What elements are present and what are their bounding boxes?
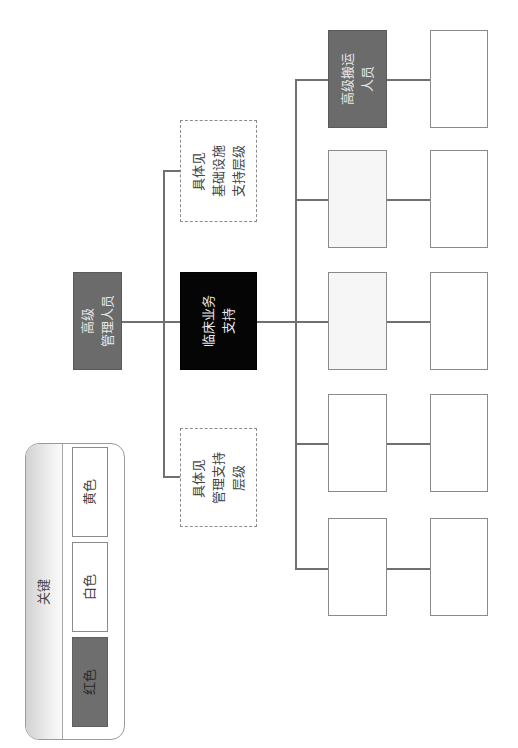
node-text: 人员 [358,53,378,105]
node-text: 高级 [78,295,98,347]
legend-label: 白色 [80,574,100,600]
node-l4-5 [430,518,488,616]
connector-l3-5 [295,568,328,570]
node-l3-5 [328,518,387,616]
node-clinical-support: 临床业务 支持 [180,272,257,370]
connector-l4-2 [387,199,430,201]
node-l4-1 [430,30,488,128]
trunk-level2 [163,170,165,477]
node-l4-4 [430,394,488,492]
legend-item-yellow: 黄色 [72,447,108,537]
node-text: 基础设施 [209,145,229,197]
legend-item-white: 白色 [72,542,108,632]
node-text: 层级 [229,452,249,504]
node-text: 管理人员 [98,295,118,347]
connector-l4-5 [387,568,430,570]
node-l3-2 [328,150,387,248]
connector-root-to-trunk [122,321,180,323]
node-text: 支持层级 [229,145,249,197]
node-senior-management: 高级 管理人员 [73,272,122,370]
node-text: 管理支持 [209,452,229,504]
node-text: 支持 [219,295,239,347]
node-l3-4 [328,394,387,492]
legend-item-red: 红色 [72,637,108,727]
node-l4-2 [430,150,488,248]
connector-level2-top [163,170,180,172]
node-text: 具体见 [189,145,209,197]
connector-clinical-to-trunk [257,321,296,323]
legend-title: 关键 [34,579,54,605]
connector-l3-4 [295,443,328,445]
node-l4-3 [430,272,488,370]
connector-l4-4 [387,443,430,445]
connector-l4-3 [387,321,430,323]
legend-label: 黄色 [80,479,100,505]
connector-l3-1 [295,79,328,81]
node-text: 临床业务 [199,295,219,347]
node-text: 高级搬运 [338,53,358,105]
connector-l4-1 [387,79,430,81]
node-management-ref: 具体见 管理支持 层级 [180,428,257,527]
connector-l3-2 [295,199,328,201]
legend-header: 关键 [26,444,63,739]
legend-key: 关键 黄色 白色 红色 [25,443,125,740]
legend-label: 红色 [80,669,100,695]
connector-l3-3 [295,321,328,323]
node-infrastructure-ref: 具体见 基础设施 支持层级 [180,120,257,222]
node-text: 具体见 [189,452,209,504]
trunk-level3 [295,79,297,569]
connector-level2-bottom [163,476,180,478]
node-l3-3 [328,272,387,370]
node-senior-porter: 高级搬运 人员 [328,30,387,128]
